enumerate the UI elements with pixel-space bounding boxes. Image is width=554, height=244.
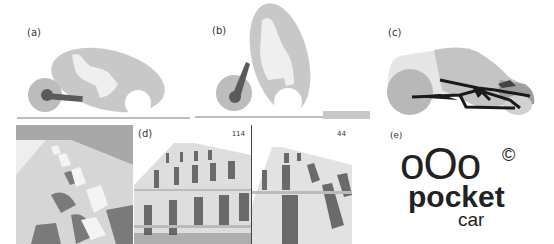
reclined-vehicle-illustration	[0, 0, 190, 125]
panel-a: (a)	[0, 0, 190, 125]
panel-d-label: (d)	[138, 128, 152, 139]
rendered-view-1	[16, 125, 133, 244]
logo-word: pocket	[408, 182, 505, 212]
upright-vehicle-illustration	[190, 0, 370, 125]
panel-b: (b)	[190, 0, 370, 125]
panel-d: 114 (d) 44	[16, 125, 352, 244]
logo-mark: ©	[502, 145, 515, 166]
rendered-view-2: 114	[134, 125, 251, 244]
panel-c: (c)	[370, 0, 554, 125]
view-3-counter: 44	[337, 130, 346, 138]
rendered-view-3: 44	[252, 125, 352, 244]
panel-e: (e) oOo © pocket car	[370, 125, 554, 244]
view-2-counter: 114	[232, 130, 245, 138]
pocket-car-3d-illustration	[370, 0, 554, 125]
logo-sub: car	[458, 210, 484, 229]
